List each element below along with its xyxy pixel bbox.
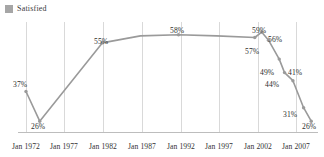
x-tick-jan-1977: Jan 1977: [50, 142, 78, 151]
data-point-marker: [278, 57, 281, 60]
value-label-41: 41%: [288, 68, 302, 77]
data-point-marker: [283, 71, 286, 74]
value-label-55: 55%: [94, 37, 108, 46]
x-tick-jan-1992: Jan 1992: [167, 142, 195, 151]
x-tick-jan-1972: Jan 1972: [12, 142, 40, 151]
value-label-58: 58%: [170, 26, 184, 35]
data-point-marker: [253, 36, 256, 39]
chart-svg: [0, 0, 324, 157]
data-point-marker: [24, 90, 27, 93]
value-label-26-early: 26%: [31, 122, 45, 131]
value-label-56: 56%: [268, 35, 282, 44]
value-label-26-late: 26%: [302, 122, 316, 131]
satisfaction-line-chart: Satisfied Jan 1972Jan 1977Jan 1982Jan 19…: [0, 0, 324, 157]
value-label-49: 49%: [260, 68, 274, 77]
plot-area: [0, 0, 324, 157]
value-label-57: 57%: [245, 47, 259, 56]
value-label-37: 37%: [13, 80, 27, 89]
value-label-44: 44%: [265, 80, 279, 89]
x-tick-jan-1987: Jan 1987: [128, 142, 156, 151]
data-point-marker: [302, 106, 305, 109]
x-tick-jan-1997: Jan 1997: [205, 142, 233, 151]
value-label-59: 59%: [252, 26, 266, 35]
x-tick-jan-1982: Jan 1982: [89, 142, 117, 151]
value-label-31: 31%: [283, 110, 297, 119]
x-tick-jan-2007: Jan 2007: [282, 142, 310, 151]
data-point-marker: [291, 79, 294, 82]
x-tick-jan-2002: Jan 2002: [244, 142, 272, 151]
